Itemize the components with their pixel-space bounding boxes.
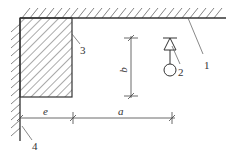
leader-2	[172, 46, 180, 64]
label-3: 3	[80, 44, 86, 56]
label-2: 2	[178, 66, 184, 78]
hatched-block	[20, 18, 72, 97]
label-1: 1	[204, 59, 210, 71]
leader-3	[72, 34, 80, 44]
dimension-a-label: a	[118, 105, 124, 117]
benchmark-symbol	[163, 38, 177, 76]
dimension-e-a	[17, 112, 175, 124]
label-4: 4	[32, 140, 38, 152]
dimension-b-label: b	[117, 67, 129, 73]
leader-4	[22, 126, 32, 140]
dimension-b	[124, 35, 138, 99]
leader-1	[188, 18, 203, 54]
top-wall-hatching	[22, 8, 222, 18]
diagram-canvas: 3 1 b 2 e a 4	[0, 0, 232, 154]
dimension-e-label: e	[43, 105, 48, 117]
